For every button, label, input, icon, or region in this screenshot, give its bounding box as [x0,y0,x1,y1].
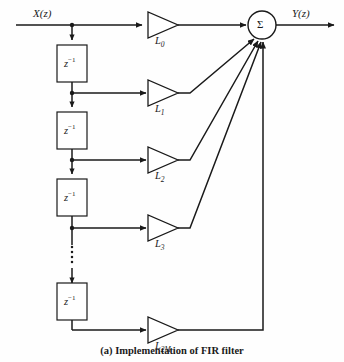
output-signal-label: Y(z) [292,8,310,19]
gain-label-3: L3 [155,239,165,252]
delay-block-3-label: z−1 [64,191,76,203]
gain-label-2: L2 [155,171,165,184]
sum-path-1 [178,39,254,93]
delay-block-1-label: z−1 [64,57,76,69]
delay-exp-3: −1 [68,190,75,198]
junction-dot-2 [70,158,74,162]
gain-triangle-2 [148,147,178,173]
delay-exp-4: −1 [68,294,75,302]
gain-label-1: L1 [155,104,165,117]
delay-exp-2: −1 [68,123,75,131]
delay-block-4-label: z−1 [64,295,76,307]
delay-exp-1: −1 [68,56,75,64]
gain-triangle-3 [148,215,178,241]
gain-sub-3: 3 [161,243,165,252]
gain-label-0: L0 [155,36,165,49]
gain-triangle-0 [148,12,178,38]
junction-dot-3 [70,226,74,230]
gain-triangle-1 [148,80,178,106]
gain-sub-2: 2 [161,175,165,184]
summation-symbol: Σ [257,19,263,30]
gain-triangle-2m [148,317,178,343]
fir-filter-diagram [0,0,344,362]
vertical-ellipsis-dots [71,246,74,264]
gain-sub-0: 0 [161,40,165,49]
sum-path-3 [178,42,261,228]
junction-dot-1 [70,91,74,95]
figure-caption: (a) Implementation of FIR filter [0,345,344,356]
sum-path-2 [178,41,258,160]
delay-block-2-label: z−1 [64,124,76,136]
fir-filter-figure: X(z) Y(z) Σ z−1 z−1 z−1 z−1 L0 L1 L2 L3 … [0,0,344,362]
sum-path-2m [178,42,263,330]
junction-dot-0 [70,23,74,27]
gain-sub-1: 1 [161,108,165,117]
input-signal-label: X(z) [33,8,51,19]
